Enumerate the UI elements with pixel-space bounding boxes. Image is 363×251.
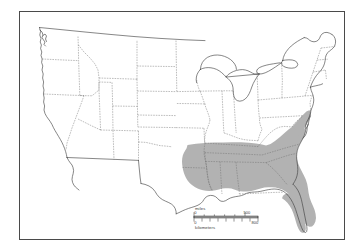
scale-bar-kilometers-max: 800 [252, 221, 259, 225]
scale-bar-kilometers-label: kilometers [195, 226, 215, 230]
scale-bar-miles-min: 0 [194, 211, 196, 215]
scale-bar-miles-max: 500 [244, 211, 251, 215]
distribution-map-figure: miles [0, 0, 363, 251]
map-canvas [0, 0, 363, 251]
